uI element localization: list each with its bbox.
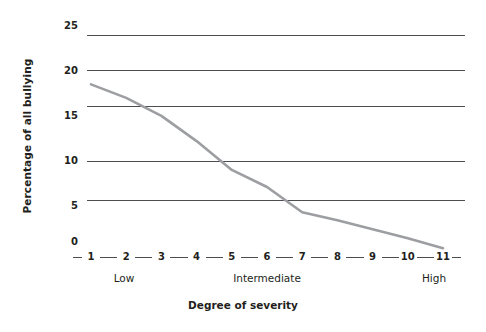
y-tick-label-25: 25 <box>52 21 78 31</box>
chart-figure: Percentage of all bullying 25 20 15 10 5… <box>0 0 486 332</box>
x-tick-label-9: 9 <box>363 251 383 262</box>
x-axis-segment <box>452 257 461 258</box>
x-axis-segment <box>417 257 434 258</box>
gridline-3 <box>87 106 465 107</box>
x-axis-segment <box>135 257 152 258</box>
x-axis-segment <box>311 257 328 258</box>
x-tick-label-8: 8 <box>327 251 347 262</box>
category-label-high: High <box>374 272 486 284</box>
y-axis-title: Percentage of all bullying <box>21 26 33 246</box>
x-axis-segment <box>170 257 187 258</box>
gridline-1 <box>87 35 465 36</box>
x-tick-label-10: 10 <box>398 251 418 262</box>
x-tick-label-5: 5 <box>222 251 242 262</box>
category-label-low: Low <box>64 272 184 284</box>
x-tick-label-4: 4 <box>187 251 207 262</box>
y-tick-label-5: 5 <box>52 201 78 211</box>
y-tick-label-20: 20 <box>52 66 78 76</box>
x-axis-segment <box>382 257 399 258</box>
y-tick-label-10: 10 <box>52 156 78 166</box>
y-tick-label-15: 15 <box>52 111 78 121</box>
x-axis-title: Degree of severity <box>0 299 486 311</box>
y-tick-label-0: 0 <box>52 237 78 247</box>
x-tick-label-6: 6 <box>257 251 277 262</box>
x-tick-label-3: 3 <box>151 251 171 262</box>
gridline-5 <box>87 200 465 201</box>
x-axis-segment <box>241 257 258 258</box>
x-tick-label-1: 1 <box>81 251 101 262</box>
x-axis-segment <box>206 257 223 258</box>
x-axis-segment <box>346 257 363 258</box>
x-tick-label-7: 7 <box>292 251 312 262</box>
gridline-4 <box>87 161 465 162</box>
category-label-intermediate: Intermediate <box>207 272 327 284</box>
x-tick-label-2: 2 <box>116 251 136 262</box>
x-tick-label-11: 11 <box>433 251 453 262</box>
x-axis-segment <box>100 257 117 258</box>
x-axis-segment <box>276 257 293 258</box>
gridline-2 <box>87 70 465 71</box>
